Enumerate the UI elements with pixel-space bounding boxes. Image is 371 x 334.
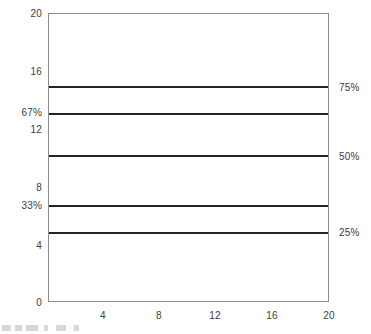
y-axis-annotation-67: 67% (0, 108, 42, 118)
right-label-25: 25% (339, 228, 360, 238)
right-label-50: 50% (339, 152, 360, 162)
x-axis-tick-16: 16 (257, 311, 287, 321)
data-line-25 (49, 232, 328, 234)
data-line-67 (49, 113, 328, 115)
plot-area (48, 13, 329, 302)
y-axis-tick-16: 16 (2, 67, 42, 77)
chart-figure: 20 16 67% 12 8 33% 4 0 4 8 12 16 20 75% … (0, 0, 371, 334)
x-axis-tick-8: 8 (144, 311, 174, 321)
x-axis-tick-12: 12 (200, 311, 230, 321)
x-axis-tick-20: 20 (314, 311, 344, 321)
y-axis-tick-20: 20 (2, 9, 42, 19)
y-axis-tick-12: 12 (2, 125, 42, 135)
y-axis-annotation-33: 33% (0, 201, 42, 211)
y-axis-tick-8: 8 (2, 183, 42, 193)
y-axis-tick-0: 0 (2, 298, 42, 308)
data-line-50 (49, 155, 328, 157)
x-axis-tick-4: 4 (88, 311, 118, 321)
data-line-33 (49, 205, 328, 207)
y-axis-tick-4: 4 (2, 241, 42, 251)
scan-artifact (0, 325, 371, 334)
right-label-75: 75% (339, 83, 360, 93)
data-line-75 (49, 86, 328, 88)
